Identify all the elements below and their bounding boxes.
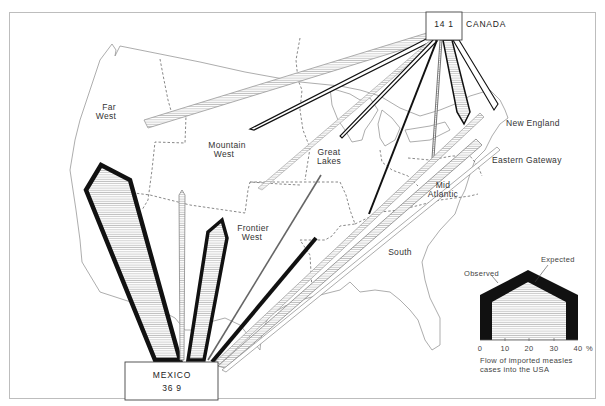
legend-caption-line2: cases into the USA (480, 365, 549, 374)
legend: Observed Expected 0 10 20 30 40 % Flow o… (464, 255, 593, 374)
mexico-flows (86, 113, 500, 372)
legend-tick-0: 0 (478, 344, 482, 353)
legend-axis-unit: % (586, 344, 593, 353)
legend-expected-label: Expected (541, 255, 575, 264)
legend-tick-30: 30 (550, 344, 559, 353)
legend-observed-label: Observed (464, 269, 499, 278)
legend-tick-20: 20 (525, 344, 534, 353)
region-great-lakes-l2: Lakes (317, 156, 341, 166)
legend-caption-line1: Flow of imported measles (480, 356, 573, 365)
region-mountain-west-l2: West (214, 149, 235, 159)
canada-origin: 14 1 CANADA (426, 12, 506, 40)
mexico-origin: MEXICO 36 9 (125, 362, 218, 400)
mexico-label: MEXICO (153, 370, 191, 380)
flow-map: 14 1 CANADA MEXICO 36 9 Far West Mountai… (0, 0, 605, 406)
region-mid-atlantic-l2: Atlantic (428, 189, 459, 199)
canada-value: 14 1 (434, 19, 454, 29)
region-labels: Far West Mountain West Great Lakes Front… (96, 102, 562, 257)
region-south: South (388, 247, 412, 257)
canada-label: CANADA (466, 19, 506, 29)
region-frontier-west-l2: West (242, 232, 263, 242)
region-new-england: New England (506, 118, 560, 128)
legend-tick-40: 40 (574, 344, 583, 353)
region-far-west-l2: West (96, 111, 117, 121)
legend-tick-10: 10 (501, 344, 510, 353)
region-eastern-gateway: Eastern Gateway (492, 155, 562, 165)
mexico-value: 36 9 (162, 383, 182, 393)
